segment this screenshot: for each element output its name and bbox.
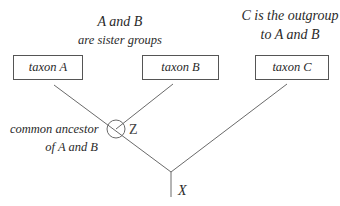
sister-line-1: A and B xyxy=(70,12,170,31)
taxon-c-box: taxon C xyxy=(255,55,329,80)
branch-b xyxy=(116,84,173,129)
sister-line-2: are sister groups xyxy=(70,31,170,50)
outgroup-line-2: to A and B xyxy=(235,25,340,44)
node-x-label: X xyxy=(178,183,187,199)
taxon-b-label: taxon B xyxy=(161,60,200,75)
taxon-c-label: taxon C xyxy=(272,60,311,75)
taxon-b-box: taxon B xyxy=(142,55,219,80)
sister-groups-note: A and B are sister groups xyxy=(70,12,170,50)
ancestor-line-2: of A and B xyxy=(10,138,98,156)
branch-c xyxy=(171,84,287,172)
taxon-a-label: taxon A xyxy=(29,60,67,75)
ancestor-line-1: common ancestor xyxy=(10,120,98,138)
node-z-label: Z xyxy=(129,122,138,138)
outgroup-note: C is the outgroup to A and B xyxy=(235,6,340,44)
common-ancestor-note: common ancestor of A and B xyxy=(10,120,98,156)
taxon-a-box: taxon A xyxy=(13,55,83,80)
outgroup-line-1: C is the outgroup xyxy=(235,6,340,25)
